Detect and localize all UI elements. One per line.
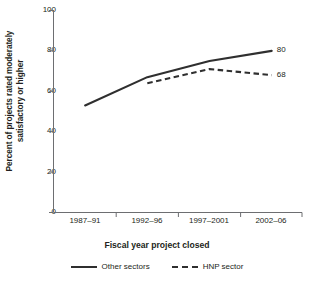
legend-label-hnp-sector: HNP sector [203, 262, 244, 271]
line-series-hnp-sector [147, 69, 271, 83]
x-tick-label-2002-06: 2002–06 [236, 216, 306, 225]
x-tick-label-1992-96: 1992–96 [112, 216, 182, 225]
x-tick-label-1997-2001: 1997–2001 [174, 216, 244, 225]
legend-item-other-sectors[interactable]: Other sectors [71, 262, 150, 271]
chart-figure: Percent of projects rated moderately sat… [0, 0, 314, 282]
legend-swatch-dashed-line-icon [172, 266, 198, 268]
chart-legend: Other sectors HNP sector [0, 262, 314, 271]
end-value-label-hnp-sector: 68 [277, 70, 286, 79]
y-tick-marks [49, 11, 54, 213]
legend-swatch-solid-line-icon [71, 266, 97, 268]
line-series-other-sectors [85, 51, 272, 106]
legend-label-other-sectors: Other sectors [102, 262, 150, 271]
legend-item-hnp-sector[interactable]: HNP sector [172, 262, 244, 271]
x-axis-title: Fiscal year project closed [0, 240, 314, 250]
x-tick-label-1987-91: 1987–91 [50, 216, 120, 225]
end-value-label-other-sectors: 80 [277, 45, 286, 54]
